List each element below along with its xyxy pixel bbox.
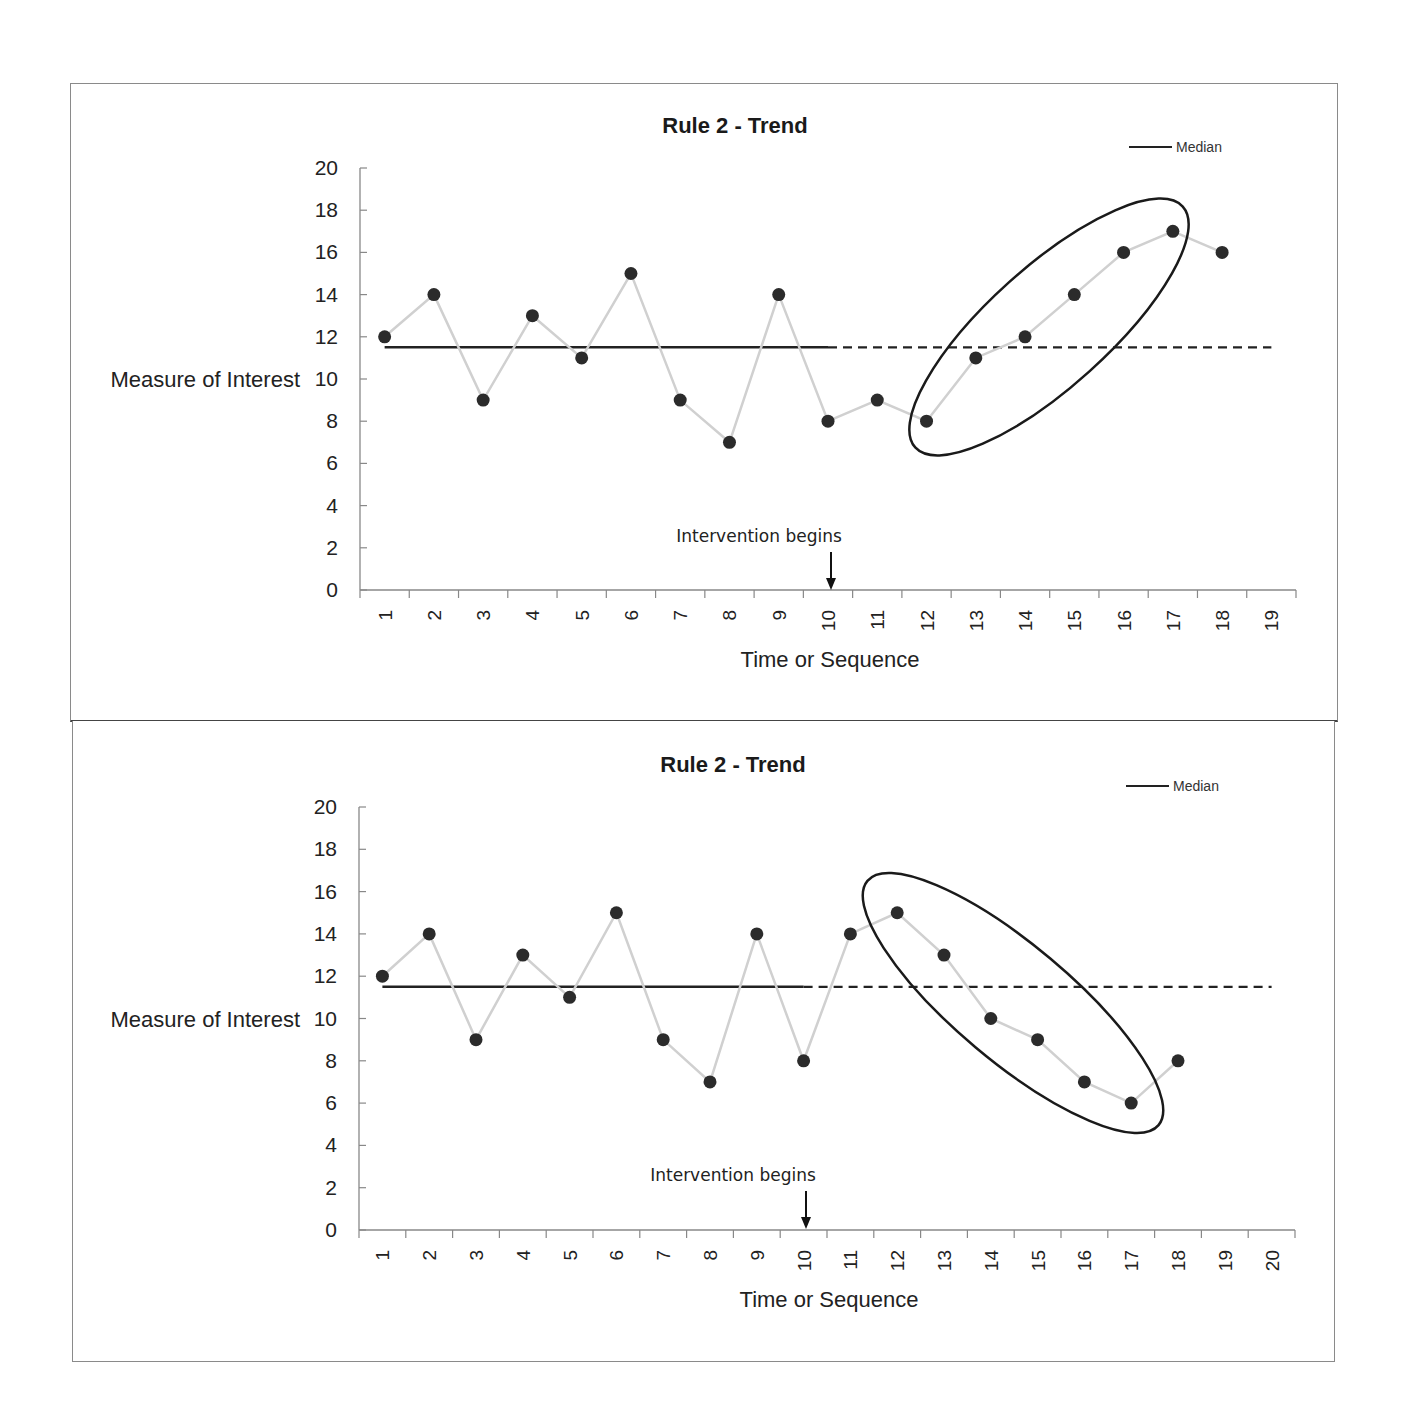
- arrow-down-icon: [826, 552, 836, 590]
- data-point: [704, 1075, 717, 1088]
- x-tick-label: 12: [917, 610, 938, 631]
- x-tick-label: 15: [1064, 610, 1085, 631]
- x-axis-label: Time or Sequence: [741, 647, 920, 672]
- x-tick-label: 17: [1121, 1250, 1142, 1271]
- y-tick-label: 0: [326, 578, 338, 601]
- data-point: [772, 288, 785, 301]
- data-point: [1031, 1033, 1044, 1046]
- x-tick-label: 13: [966, 610, 987, 631]
- y-tick-label: 16: [315, 240, 338, 263]
- x-tick-label: 7: [653, 1250, 674, 1261]
- axes: 0246810121416182012345678910111213141516…: [315, 156, 1296, 631]
- data-point: [575, 351, 588, 364]
- data-point: [1166, 225, 1179, 238]
- chart-1: Rule 2 - Trend Median Measure of Interes…: [110, 113, 1296, 672]
- data-point: [1117, 246, 1130, 259]
- intervention-annotation: Intervention begins: [676, 526, 842, 546]
- x-tick-label: 8: [700, 1250, 721, 1261]
- x-tick-label: 7: [670, 610, 691, 621]
- data-point: [984, 1012, 997, 1025]
- data-point: [1216, 246, 1229, 259]
- x-tick-label: 11: [867, 610, 888, 630]
- data-point: [822, 415, 835, 428]
- x-tick-label: 3: [473, 610, 494, 621]
- y-tick-label: 2: [325, 1176, 337, 1199]
- x-tick-label: 8: [719, 610, 740, 621]
- x-tick-label: 3: [466, 1250, 487, 1261]
- x-tick-label: 2: [424, 610, 445, 621]
- data-point: [844, 927, 857, 940]
- x-tick-label: 10: [794, 1250, 815, 1271]
- chart-title: Rule 2 - Trend: [660, 752, 805, 777]
- data-point: [526, 309, 539, 322]
- y-tick-label: 20: [315, 156, 338, 179]
- x-tick-label: 19: [1215, 1250, 1236, 1271]
- x-tick-label: 19: [1261, 610, 1282, 631]
- data-point: [477, 394, 490, 407]
- axes: 0246810121416182012345678910111213141516…: [314, 795, 1295, 1271]
- x-tick-label: 4: [513, 1250, 534, 1261]
- y-tick-label: 16: [314, 880, 337, 903]
- y-tick-label: 10: [314, 1007, 337, 1030]
- legend-median-label: Median: [1173, 778, 1219, 794]
- x-tick-label: 6: [621, 610, 642, 621]
- x-tick-label: 14: [1015, 610, 1036, 632]
- x-tick-label: 16: [1074, 1250, 1095, 1271]
- x-tick-label: 2: [419, 1250, 440, 1261]
- chart-2: Rule 2 - Trend Median Measure of Interes…: [110, 752, 1295, 1312]
- data-point: [470, 1033, 483, 1046]
- x-tick-label: 1: [375, 610, 396, 621]
- data-point: [516, 949, 529, 962]
- y-tick-label: 4: [325, 1133, 337, 1156]
- y-tick-label: 20: [314, 795, 337, 818]
- data-point: [624, 267, 637, 280]
- y-tick-label: 18: [314, 837, 337, 860]
- arrow-down-icon: [801, 1191, 811, 1229]
- x-tick-label: 1: [372, 1250, 393, 1261]
- y-tick-label: 14: [315, 283, 339, 306]
- series-line: [385, 231, 1222, 442]
- legend: Median: [1126, 778, 1219, 794]
- legend: Median: [1129, 139, 1222, 155]
- x-tick-label: 4: [522, 610, 543, 621]
- data-point: [797, 1054, 810, 1067]
- y-axis-label: Measure of Interest: [110, 1007, 300, 1032]
- data-point: [657, 1033, 670, 1046]
- x-tick-label: 18: [1212, 610, 1233, 631]
- x-tick-label: 18: [1168, 1250, 1189, 1271]
- x-tick-label: 15: [1028, 1250, 1049, 1271]
- y-axis-label: Measure of Interest: [110, 367, 300, 392]
- y-tick-label: 8: [325, 1049, 337, 1072]
- x-tick-label: 9: [769, 610, 790, 621]
- data-point: [871, 394, 884, 407]
- data-series: [376, 906, 1185, 1109]
- data-point: [1125, 1097, 1138, 1110]
- y-tick-label: 4: [326, 494, 338, 517]
- x-tick-label: 13: [934, 1250, 955, 1271]
- data-point: [1019, 330, 1032, 343]
- x-tick-label: 5: [560, 1250, 581, 1261]
- intervention-annotation: Intervention begins: [650, 1165, 816, 1185]
- data-point: [674, 394, 687, 407]
- chart-title: Rule 2 - Trend: [662, 113, 807, 138]
- data-point: [891, 906, 904, 919]
- y-tick-label: 14: [314, 922, 338, 945]
- y-tick-label: 18: [315, 198, 338, 221]
- y-tick-label: 6: [326, 451, 338, 474]
- data-point: [563, 991, 576, 1004]
- charts-canvas: Rule 2 - Trend Median Measure of Interes…: [0, 0, 1406, 1424]
- y-tick-label: 2: [326, 536, 338, 559]
- data-point: [938, 949, 951, 962]
- data-point: [423, 927, 436, 940]
- y-tick-label: 12: [314, 964, 337, 987]
- y-tick-label: 12: [315, 325, 338, 348]
- y-tick-label: 10: [315, 367, 338, 390]
- data-point: [723, 436, 736, 449]
- data-point: [610, 906, 623, 919]
- data-point: [920, 415, 933, 428]
- x-tick-label: 16: [1114, 610, 1135, 631]
- data-point: [750, 927, 763, 940]
- data-point: [1068, 288, 1081, 301]
- x-tick-label: 20: [1262, 1250, 1283, 1271]
- data-point: [427, 288, 440, 301]
